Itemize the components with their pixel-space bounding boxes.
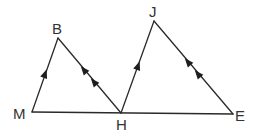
- label-B: B: [52, 20, 62, 37]
- parallel-arrow-icon-MB: [40, 68, 50, 79]
- parallel-arrow-icon-HJ: [133, 60, 143, 71]
- label-H: H: [116, 116, 127, 133]
- segment-BH: [58, 38, 121, 113]
- label-J: J: [149, 3, 157, 20]
- segment-JE: [154, 21, 233, 114]
- label-M: M: [13, 105, 26, 122]
- geometry-diagram: M B H J E: [0, 0, 257, 136]
- label-E: E: [235, 107, 245, 124]
- segment-ME: [32, 112, 233, 114]
